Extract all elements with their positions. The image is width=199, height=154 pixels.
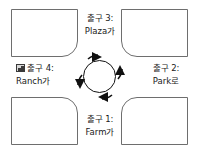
exit-1-number: 출구 1: (79, 113, 121, 126)
quadrant-bottom-right (121, 97, 188, 145)
exit-3-number: 출구 3: (79, 12, 121, 25)
exit-4-street: Ranch가 (16, 75, 77, 88)
exit-label-3: 출구 3: Plaza가 (79, 12, 121, 37)
quadrant-top-right (121, 9, 188, 57)
roundabout-circle (83, 60, 116, 93)
exit-4-number-row: 출구 4: (16, 62, 77, 75)
quadrant-bottom-left (11, 97, 78, 145)
broken-image-icon (16, 64, 25, 72)
exit-label-4: 출구 4: Ranch가 (13, 62, 77, 87)
quadrant-top-left (11, 9, 78, 57)
exit-2-street: Park로 (143, 75, 189, 88)
exit-label-2: 출구 2: Park로 (143, 62, 189, 87)
exit-4-number: 출구 4: (27, 63, 54, 73)
exit-1-street: Farm가 (79, 126, 121, 139)
exit-3-street: Plaza가 (79, 25, 121, 38)
roundabout-diagram: 출구 3: Plaza가 출구 2: Park로 출구 1: Farm가 출구 … (0, 0, 199, 154)
exit-2-number: 출구 2: (143, 62, 189, 75)
exit-label-1: 출구 1: Farm가 (79, 113, 121, 138)
